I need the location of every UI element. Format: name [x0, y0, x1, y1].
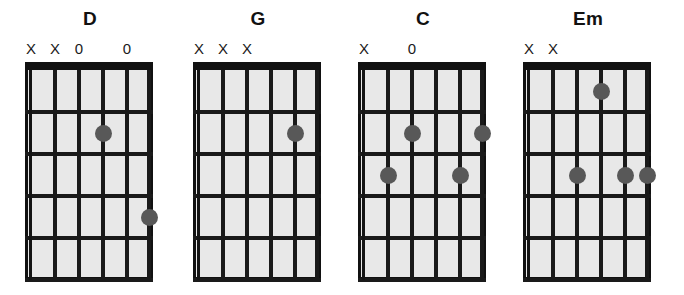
finger-position-dot	[474, 125, 491, 142]
muted-string-marker: X	[522, 40, 536, 58]
fret-line	[193, 194, 321, 198]
nut	[523, 62, 651, 70]
nut	[25, 62, 153, 70]
string-line	[147, 70, 151, 280]
string-marker-row: XX	[523, 40, 653, 60]
string-line	[53, 70, 57, 280]
fret-line	[25, 110, 153, 114]
string-line	[221, 70, 225, 280]
string-line	[29, 70, 32, 280]
fret-line	[358, 152, 486, 156]
fret-line	[523, 152, 651, 156]
string-line	[551, 70, 555, 280]
muted-string-marker: X	[48, 40, 62, 58]
muted-string-marker: X	[216, 40, 230, 58]
finger-position-dot	[95, 125, 112, 142]
fret-line	[193, 110, 321, 114]
string-line	[269, 70, 273, 280]
muted-string-marker: X	[357, 40, 371, 58]
string-line	[434, 70, 438, 280]
string-line	[410, 70, 414, 280]
fret-line	[523, 278, 651, 282]
fret-line	[523, 194, 651, 198]
fretboard-background	[193, 62, 321, 280]
fret-line	[358, 194, 486, 198]
string-marker-row: XX00	[25, 40, 155, 60]
fret-line	[358, 278, 486, 282]
muted-string-marker: X	[192, 40, 206, 58]
fretboard	[25, 62, 153, 280]
chord-diagram-g: GXXX	[193, 0, 343, 295]
muted-string-marker: X	[546, 40, 560, 58]
muted-string-marker: X	[24, 40, 38, 58]
finger-position-dot	[617, 167, 634, 184]
finger-position-dot	[452, 167, 469, 184]
chord-title: G	[193, 8, 323, 30]
fret-line	[193, 278, 321, 282]
fret-line	[25, 152, 153, 156]
fret-line	[523, 110, 651, 114]
string-line	[125, 70, 129, 280]
fret-line	[25, 236, 153, 240]
fret-line	[25, 278, 153, 282]
string-line	[527, 70, 530, 280]
fretboard	[193, 62, 321, 280]
nut	[193, 62, 321, 70]
finger-position-dot	[593, 83, 610, 100]
fret-line	[193, 152, 321, 156]
string-line	[315, 70, 319, 280]
string-line	[77, 70, 81, 280]
fret-line	[25, 194, 153, 198]
finger-position-dot	[287, 125, 304, 142]
string-marker-row: X0	[358, 40, 488, 60]
open-string-marker: 0	[72, 40, 86, 58]
string-line	[293, 70, 297, 280]
fret-line	[523, 236, 651, 240]
nut	[358, 62, 486, 70]
string-line	[197, 70, 200, 280]
finger-position-dot	[569, 167, 586, 184]
chord-title: Em	[523, 8, 653, 30]
fret-line	[358, 110, 486, 114]
fretboard	[523, 62, 651, 280]
chord-chart-root: DXX00GXXXCX0EmXX	[0, 0, 684, 295]
string-line	[599, 70, 603, 280]
chord-title: C	[358, 8, 488, 30]
fret-line	[193, 236, 321, 240]
chord-diagram-c: CX0	[358, 0, 508, 295]
string-line	[245, 70, 249, 280]
chord-diagram-em: EmXX	[523, 0, 673, 295]
chord-diagram-d: DXX00	[25, 0, 175, 295]
finger-position-dot	[380, 167, 397, 184]
open-string-marker: 0	[120, 40, 134, 58]
string-line	[101, 70, 105, 280]
open-string-marker: 0	[405, 40, 419, 58]
chord-title: D	[25, 8, 155, 30]
string-line	[362, 70, 365, 280]
muted-string-marker: X	[240, 40, 254, 58]
fretboard	[358, 62, 486, 280]
fret-line	[358, 236, 486, 240]
finger-position-dot	[639, 167, 656, 184]
string-marker-row: XXX	[193, 40, 323, 60]
finger-position-dot	[404, 125, 421, 142]
string-line	[480, 70, 484, 280]
fretboard-background	[25, 62, 153, 280]
finger-position-dot	[141, 209, 158, 226]
